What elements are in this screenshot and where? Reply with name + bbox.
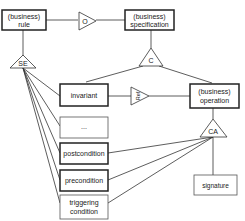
entity-triggering-line1: triggering [69,199,98,207]
diagram-canvas: (business) rule (business) specification… [0,0,245,221]
entity-specification-line2: specification [130,21,169,29]
entity-precondition[interactable]: precondition [60,170,108,191]
entity-rule[interactable]: (business) rule [2,10,46,30]
relationship-c-label: C [148,57,153,64]
relationship-o-icon[interactable]: O [79,12,96,30]
entity-postcondition[interactable]: postcondition [60,143,108,164]
entity-triggering-line2: condition [70,208,98,215]
entity-operation-line1: (business) [198,88,230,96]
relationship-ca-label: CA [208,128,218,135]
line-c-invariant [86,66,143,82]
relationship-o-label: O [82,18,88,25]
entity-invariant-label: invariant [71,92,98,99]
line-se-ellipsis [23,68,60,126]
line-ca-precondition [108,137,213,180]
connector-lines [23,20,213,203]
relationship-ref-icon[interactable]: Ref [131,87,149,105]
entity-specification-line1: (business) [133,13,165,21]
line-se-triggering [23,68,60,203]
relationship-se-icon[interactable]: SE [10,55,36,68]
entity-ellipsis-label: ... [81,123,87,130]
relationship-ca-icon[interactable]: CA [200,119,227,137]
entity-operation-line2: operation [200,97,229,105]
line-c-operation [159,66,212,83]
relationship-c-icon[interactable]: C [139,48,163,66]
entity-postcondition-label: postcondition [63,150,104,158]
entity-invariant[interactable]: invariant [60,84,108,106]
line-se-precondition [23,68,60,180]
entity-precondition-label: precondition [65,177,103,185]
entity-specification[interactable]: (business) specification [125,10,174,30]
entity-triggering-condition[interactable]: triggering condition [60,195,108,219]
relationship-ref-label: Ref [135,91,141,100]
line-ca-postcondition [108,137,213,153]
line-se-invariant [23,68,60,96]
relationship-se-label: SE [18,60,28,67]
entity-ellipsis[interactable]: ... [60,117,108,138]
entity-signature[interactable]: signature [194,175,237,195]
entity-rule-line1: (business) [8,13,40,21]
entity-signature-label: signature [202,182,229,190]
line-se-postcondition [23,68,60,153]
entity-operation[interactable]: (business) operation [190,84,239,108]
entity-rule-line2: rule [18,21,30,28]
